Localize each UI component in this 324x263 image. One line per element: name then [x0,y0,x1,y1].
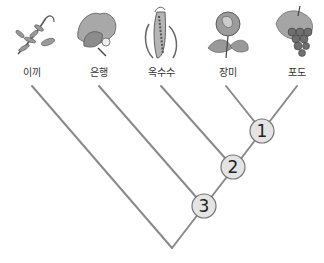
svg-text:2: 2 [228,157,239,177]
node-3: 3 [192,194,216,218]
node-2: 2 [221,155,245,179]
branch-ginkgo [99,86,204,206]
branch-moss [32,86,172,248]
svg-text:1: 1 [257,121,268,141]
branch-corn [161,86,233,167]
cladogram-tree: 1 2 3 [0,0,324,263]
svg-text:3: 3 [199,196,210,216]
node-1: 1 [250,119,274,143]
